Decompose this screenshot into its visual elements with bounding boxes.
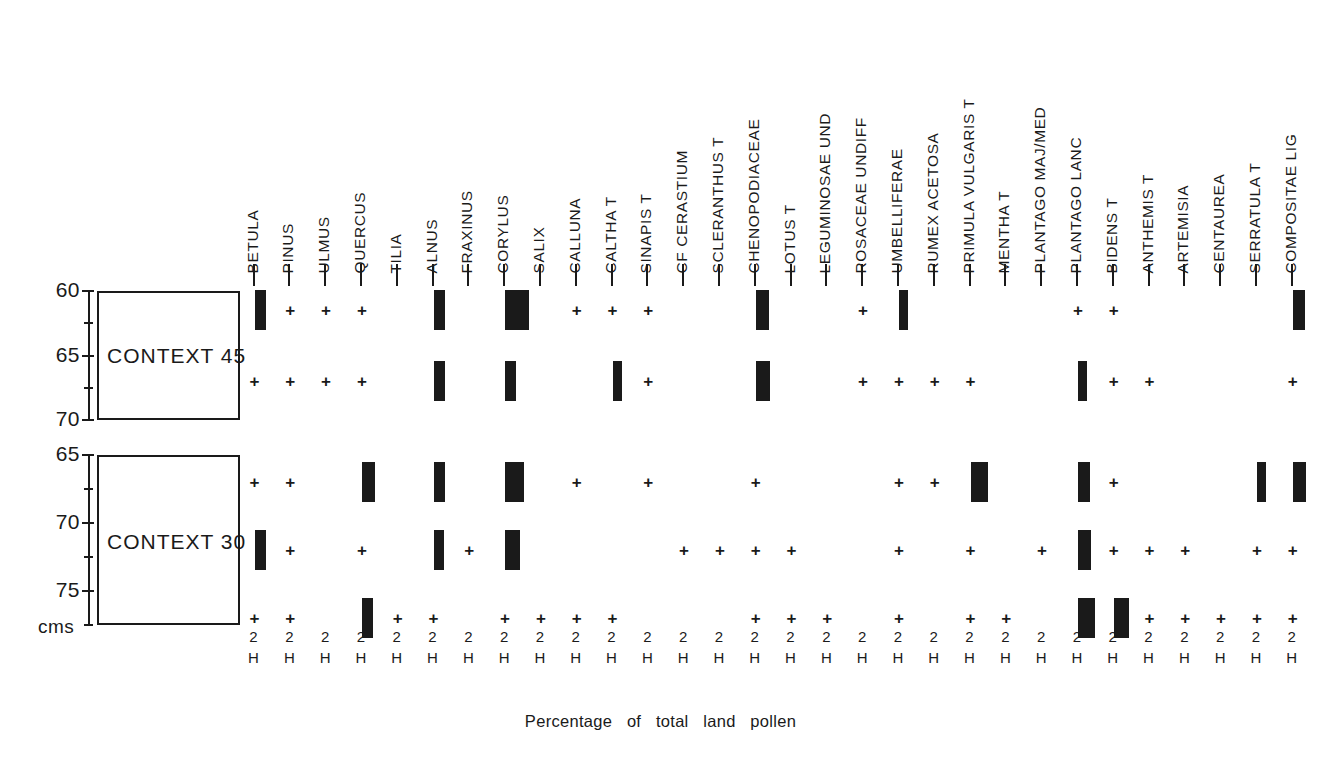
pollen-presence-plus: +: [643, 474, 653, 491]
pollen-bar: [1293, 462, 1306, 502]
taxon-label: ANTHEMIS T: [1139, 174, 1155, 274]
scale-unit-h: H: [673, 650, 693, 665]
taxon-column-tick: [1004, 264, 1006, 286]
taxon-column-tick: [897, 264, 899, 286]
scale-unit-h: H: [315, 650, 335, 665]
depth-axis-minor-tick: [84, 488, 93, 490]
pollen-presence-plus: +: [572, 474, 582, 491]
taxon-label: ROSACEAE UNDIFF: [853, 117, 869, 273]
taxon-label: SINAPIS T: [638, 193, 654, 273]
taxon-column-tick: [646, 264, 648, 286]
pollen-presence-plus: +: [500, 610, 510, 627]
taxon-column-tick: [1183, 264, 1185, 286]
depth-axis-label: 65: [38, 344, 80, 365]
depth-axis-major-tick: [82, 290, 94, 292]
pollen-presence-plus: +: [1109, 373, 1119, 390]
pollen-presence-plus: +: [894, 610, 904, 627]
scale-numerator: 2: [709, 629, 729, 644]
scale-numerator: 2: [960, 629, 980, 644]
pollen-bar: [505, 462, 523, 502]
scale-numerator: 2: [1174, 629, 1194, 644]
taxon-label: PLANTAGO MAJ/MED: [1032, 107, 1048, 274]
pollen-presence-plus: +: [429, 610, 439, 627]
pollen-presence-plus: +: [285, 373, 295, 390]
taxon-label: COMPOSITAE LIG: [1282, 134, 1298, 274]
pollen-presence-plus: +: [858, 373, 868, 390]
scale-numerator: 2: [816, 629, 836, 644]
taxon-label: CHENOPODIACEAE: [745, 119, 761, 274]
pollen-presence-plus: +: [966, 610, 976, 627]
pollen-bar: [434, 361, 445, 401]
pollen-bar: [505, 290, 529, 330]
scale-numerator: 2: [995, 629, 1015, 644]
depth-axis-minor-tick: [84, 322, 93, 324]
scale-numerator: 2: [1246, 629, 1266, 644]
pollen-presence-plus: +: [464, 542, 474, 559]
pollen-presence-plus: +: [787, 542, 797, 559]
depth-unit-label: cms: [38, 616, 74, 638]
pollen-bar: [505, 530, 520, 570]
depth-axis-label: 70: [38, 511, 80, 532]
scale-numerator: 2: [279, 629, 299, 644]
pollen-presence-plus: +: [536, 610, 546, 627]
depth-axis-major-tick: [82, 419, 94, 421]
context-label: CONTEXT 45: [107, 345, 232, 366]
scale-unit-h: H: [1067, 650, 1087, 665]
scale-numerator: 2: [1031, 629, 1051, 644]
taxon-label: CALLUNA: [566, 198, 582, 274]
scale-unit-h: H: [995, 650, 1015, 665]
scale-unit-h: H: [852, 650, 872, 665]
taxon-label: UMBELLIFERAE: [888, 148, 904, 273]
pollen-bar: [362, 462, 375, 502]
pollen-presence-plus: +: [250, 373, 260, 390]
pollen-presence-plus: +: [572, 610, 582, 627]
taxon-label: CENTAUREA: [1211, 174, 1227, 274]
scale-unit-h: H: [1174, 650, 1194, 665]
scale-numerator: 2: [244, 629, 264, 644]
pollen-presence-plus: +: [894, 542, 904, 559]
taxon-column-tick: [861, 264, 863, 286]
depth-axis-minor-tick: [84, 556, 93, 558]
pollen-presence-plus: +: [966, 542, 976, 559]
scale-numerator: 2: [781, 629, 801, 644]
taxon-column-tick: [1255, 264, 1257, 286]
figure-caption: Percentage of total land pollen: [0, 712, 1321, 731]
pollen-presence-plus: +: [930, 474, 940, 491]
scale-numerator: 2: [852, 629, 872, 644]
pollen-presence-plus: +: [751, 610, 761, 627]
taxon-label: FRAXINUS: [459, 190, 475, 273]
taxon-label: MENTHA T: [996, 191, 1012, 274]
scale-numerator: 2: [1139, 629, 1159, 644]
scale-unit-h: H: [745, 650, 765, 665]
pollen-presence-plus: +: [1288, 542, 1298, 559]
pollen-presence-plus: +: [285, 610, 295, 627]
pollen-presence-plus: +: [1145, 373, 1155, 390]
scale-numerator: 2: [745, 629, 765, 644]
pollen-presence-plus: +: [894, 373, 904, 390]
taxon-label: RUMEX ACETOSA: [924, 132, 940, 273]
scale-numerator: 2: [1282, 629, 1302, 644]
depth-axis-minor-tick: [84, 624, 93, 626]
pollen-presence-plus: +: [1145, 542, 1155, 559]
scale-unit-h: H: [602, 650, 622, 665]
depth-axis-major-tick: [82, 590, 94, 592]
pollen-bar: [1293, 290, 1305, 330]
pollen-presence-plus: +: [1001, 610, 1011, 627]
pollen-presence-plus: +: [1109, 302, 1119, 319]
scale-numerator: 2: [530, 629, 550, 644]
taxon-label: PRIMULA VULGARIS T: [960, 98, 976, 273]
taxon-column-tick: [288, 264, 290, 286]
scale-numerator: 2: [423, 629, 443, 644]
taxon-label: SERRATULA T: [1246, 162, 1262, 273]
taxon-column-tick: [933, 264, 935, 286]
scale-numerator: 2: [924, 629, 944, 644]
depth-axis-label: 70: [38, 408, 80, 429]
pollen-presence-plus: +: [1145, 610, 1155, 627]
pollen-presence-plus: +: [1288, 610, 1298, 627]
pollen-presence-plus: +: [250, 474, 260, 491]
taxon-column-tick: [1291, 264, 1293, 286]
pollen-presence-plus: +: [715, 542, 725, 559]
scale-numerator: 2: [315, 629, 335, 644]
pollen-presence-plus: +: [321, 373, 331, 390]
scale-unit-h: H: [1210, 650, 1230, 665]
